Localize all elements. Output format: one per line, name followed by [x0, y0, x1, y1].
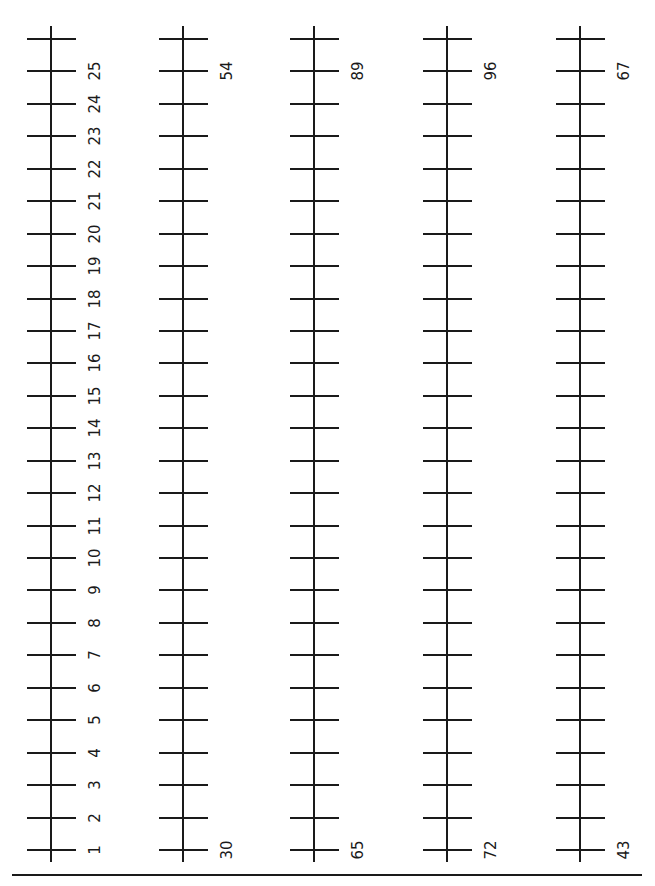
- tick-mark: [159, 233, 208, 235]
- tick-mark: [27, 395, 76, 397]
- tick-mark: [159, 38, 208, 40]
- tick-mark: [290, 200, 339, 202]
- tick-mark: [27, 492, 76, 494]
- tick-mark: [290, 168, 339, 170]
- number-line-axis: [313, 26, 315, 862]
- tick-mark: [290, 427, 339, 429]
- tick-mark: [290, 784, 339, 786]
- tick-mark: [423, 395, 472, 397]
- tick-mark: [556, 752, 605, 754]
- tick-mark: [423, 103, 472, 105]
- tick-mark: [159, 200, 208, 202]
- tick-mark: [27, 622, 76, 624]
- tick-mark: [159, 687, 208, 689]
- tick-mark: [27, 70, 76, 72]
- tick-mark: [159, 427, 208, 429]
- tick-mark: [27, 752, 76, 754]
- tick-mark: [290, 395, 339, 397]
- tick-mark: [27, 460, 76, 462]
- tick-label: 16: [88, 354, 103, 373]
- tick-label: 21: [88, 192, 103, 211]
- tick-mark: [423, 752, 472, 754]
- tick-mark: [290, 622, 339, 624]
- tick-mark: [27, 233, 76, 235]
- tick-mark: [423, 557, 472, 559]
- tick-mark: [556, 135, 605, 137]
- tick-mark: [556, 168, 605, 170]
- tick-mark: [290, 492, 339, 494]
- tick-mark: [290, 233, 339, 235]
- tick-mark: [27, 525, 76, 527]
- tick-mark: [159, 525, 208, 527]
- number-line-axis: [579, 26, 581, 862]
- tick-mark: [159, 849, 208, 851]
- tick-mark: [556, 817, 605, 819]
- tick-mark: [423, 233, 472, 235]
- tick-label: 7: [88, 651, 103, 661]
- tick-label: 19: [88, 257, 103, 276]
- tick-label: 15: [88, 386, 103, 405]
- tick-mark: [290, 589, 339, 591]
- tick-mark: [27, 654, 76, 656]
- tick-mark: [159, 330, 208, 332]
- tick-mark: [423, 719, 472, 721]
- tick-mark: [290, 654, 339, 656]
- tick-mark: [27, 168, 76, 170]
- tick-mark: [159, 103, 208, 105]
- tick-mark: [556, 395, 605, 397]
- tick-mark: [423, 784, 472, 786]
- tick-mark: [556, 233, 605, 235]
- tick-label: 2: [88, 813, 103, 823]
- tick-mark: [27, 719, 76, 721]
- tick-mark: [290, 752, 339, 754]
- tick-label: 18: [88, 289, 103, 308]
- tick-mark: [159, 168, 208, 170]
- tick-label: 14: [88, 419, 103, 438]
- tick-mark: [27, 849, 76, 851]
- tick-mark: [159, 557, 208, 559]
- tick-mark: [27, 200, 76, 202]
- tick-mark: [556, 589, 605, 591]
- tick-mark: [423, 525, 472, 527]
- tick-mark: [556, 849, 605, 851]
- tick-mark: [290, 70, 339, 72]
- tick-mark: [27, 265, 76, 267]
- tick-label: 11: [88, 516, 103, 535]
- tick-label: 4: [88, 748, 103, 758]
- tick-mark: [423, 460, 472, 462]
- tick-mark: [556, 460, 605, 462]
- tick-mark: [290, 298, 339, 300]
- tick-label: 25: [88, 62, 103, 81]
- tick-mark: [27, 298, 76, 300]
- tick-mark: [159, 784, 208, 786]
- tick-mark: [556, 362, 605, 364]
- tick-label: 20: [88, 224, 103, 243]
- tick-mark: [27, 135, 76, 137]
- tick-mark: [290, 525, 339, 527]
- tick-mark: [423, 70, 472, 72]
- tick-mark: [290, 135, 339, 137]
- tick-mark: [290, 849, 339, 851]
- tick-label: 12: [88, 484, 103, 503]
- tick-mark: [27, 687, 76, 689]
- tick-label: 22: [88, 159, 103, 178]
- tick-mark: [423, 168, 472, 170]
- tick-mark: [159, 589, 208, 591]
- tick-mark: [290, 103, 339, 105]
- tick-mark: [159, 817, 208, 819]
- tick-label: 5: [88, 715, 103, 725]
- tick-mark: [159, 492, 208, 494]
- tick-mark: [556, 654, 605, 656]
- number-line-axis: [446, 26, 448, 862]
- tick-label: 43: [617, 840, 632, 859]
- tick-mark: [159, 752, 208, 754]
- tick-mark: [27, 38, 76, 40]
- tick-mark: [556, 330, 605, 332]
- tick-mark: [290, 460, 339, 462]
- tick-label: 72: [484, 840, 499, 859]
- tick-mark: [159, 460, 208, 462]
- tick-mark: [423, 200, 472, 202]
- tick-mark: [556, 719, 605, 721]
- tick-label: 1: [88, 845, 103, 855]
- tick-mark: [556, 622, 605, 624]
